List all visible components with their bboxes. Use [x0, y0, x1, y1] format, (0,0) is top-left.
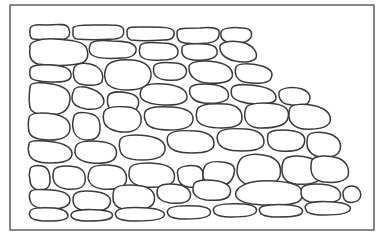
stone: [190, 84, 229, 103]
stone: [236, 181, 303, 206]
stone: [89, 41, 136, 59]
stone: [29, 83, 70, 115]
stone: [167, 131, 214, 153]
stone: [307, 132, 341, 157]
stone: [75, 141, 117, 163]
stone: [157, 184, 191, 203]
stone: [268, 130, 305, 151]
stone: [139, 42, 178, 60]
stone: [154, 62, 187, 80]
stone: [73, 25, 124, 40]
stones-group: [28, 25, 361, 222]
stone: [30, 39, 88, 66]
stone-wall-drawing: [0, 0, 380, 237]
stone: [28, 113, 70, 140]
stone: [189, 61, 232, 83]
stone: [193, 180, 231, 200]
stone: [245, 103, 289, 128]
stone: [73, 113, 100, 140]
stone: [127, 27, 174, 41]
stone: [103, 107, 141, 132]
stone: [119, 135, 165, 160]
stone: [235, 64, 272, 83]
stone: [105, 60, 151, 90]
stone: [343, 186, 361, 202]
stone: [305, 202, 350, 215]
stone: [71, 210, 113, 221]
stone: [140, 84, 187, 105]
stone: [231, 85, 276, 104]
stone: [72, 87, 104, 109]
stone: [311, 156, 349, 182]
stone: [144, 107, 193, 130]
stone: [220, 41, 257, 62]
stone: [167, 206, 210, 219]
stone: [53, 166, 85, 189]
stone: [182, 44, 217, 61]
stone: [259, 205, 302, 217]
stone: [73, 191, 111, 211]
stone: [30, 65, 71, 82]
stone: [115, 208, 164, 221]
stone: [217, 129, 264, 151]
stone: [73, 63, 103, 85]
stone: [196, 104, 242, 128]
stone: [301, 184, 341, 203]
stone: [29, 208, 68, 221]
stone: [29, 166, 50, 190]
stone: [213, 204, 256, 217]
stone: [289, 104, 330, 129]
stone: [279, 88, 310, 106]
stone: [113, 185, 155, 210]
stone: [29, 189, 70, 209]
stone: [30, 25, 70, 40]
stone: [177, 28, 219, 44]
stone: [28, 141, 72, 163]
